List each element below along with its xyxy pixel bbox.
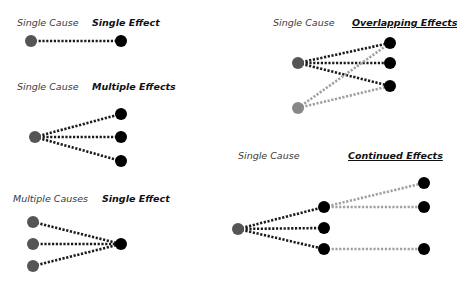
link — [238, 229, 324, 249]
cause-node — [27, 238, 39, 250]
link — [238, 207, 324, 229]
cause-node — [27, 260, 39, 272]
link-secondary — [298, 86, 390, 108]
effect-node — [115, 238, 127, 250]
continued-effect-node — [418, 177, 430, 189]
effect-node — [115, 131, 127, 143]
continued-effect-node — [418, 201, 430, 213]
cause-node — [27, 216, 39, 228]
effect-node — [318, 201, 330, 213]
cause-node — [292, 57, 304, 69]
cause-node — [232, 223, 244, 235]
secondary-cause-node — [292, 102, 304, 114]
effect-node — [318, 243, 330, 255]
continued-effect-node — [418, 243, 430, 255]
link-continued — [324, 183, 424, 207]
link — [35, 114, 121, 137]
link — [238, 228, 324, 229]
effect-node — [115, 108, 127, 120]
effect-node — [384, 80, 396, 92]
link — [35, 137, 121, 161]
effect-node — [384, 57, 396, 69]
effect-node — [115, 155, 127, 167]
effect-node — [115, 35, 127, 47]
link — [33, 222, 121, 244]
cause-node — [29, 131, 41, 143]
cause-node — [25, 35, 37, 47]
effect-node — [318, 222, 330, 234]
link — [33, 244, 121, 266]
link — [298, 63, 390, 86]
effect-node — [384, 37, 396, 49]
